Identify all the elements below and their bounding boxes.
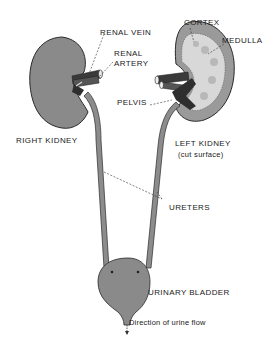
label-renal-artery-line1: RENAL bbox=[114, 49, 143, 58]
urinary-system-diagram: RENAL VEIN RENAL ARTERY CORTEX MEDULLA P… bbox=[0, 0, 277, 337]
label-ureters: URETERS bbox=[169, 203, 210, 212]
label-pelvis: PELVIS bbox=[117, 98, 147, 107]
ureters bbox=[84, 92, 180, 268]
label-flow-direction: Direction of urine flow bbox=[129, 318, 206, 327]
label-cut-surface: (cut surface) bbox=[178, 150, 224, 159]
label-right-kidney: RIGHT KIDNEY bbox=[16, 136, 78, 145]
label-left-kidney: LEFT KIDNEY bbox=[175, 139, 231, 148]
label-urinary-bladder: URINARY BLADDER bbox=[148, 288, 230, 297]
label-cortex: CORTEX bbox=[184, 18, 220, 27]
label-renal-vein: RENAL VEIN bbox=[100, 28, 151, 37]
label-renal-artery-line2: ARTERY bbox=[114, 59, 149, 68]
urinary-bladder bbox=[98, 258, 150, 325]
label-medulla: MEDULLA bbox=[222, 36, 263, 45]
